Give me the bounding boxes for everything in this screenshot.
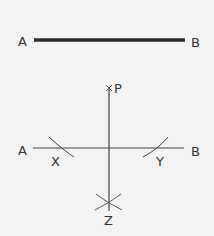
top-label-b: B bbox=[191, 35, 200, 50]
construction-diagram: A B A B P X Y Z bbox=[0, 0, 214, 236]
bottom-label-b: B bbox=[191, 144, 200, 159]
top-label-a: A bbox=[18, 34, 27, 49]
label-x: X bbox=[51, 154, 60, 169]
label-z: Z bbox=[104, 213, 113, 228]
bottom-label-a: A bbox=[18, 143, 27, 158]
label-y: Y bbox=[155, 154, 164, 169]
label-p: P bbox=[114, 81, 122, 96]
